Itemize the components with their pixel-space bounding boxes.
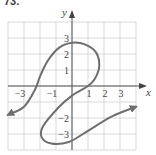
y-axis-label: y <box>61 6 67 18</box>
x-axis-label: x <box>145 86 151 98</box>
y-tick-label: 1 <box>64 65 69 76</box>
x-tick-label: 1 <box>87 88 92 99</box>
x-tick-label: 2 <box>103 88 108 99</box>
x-tick-label: −3 <box>15 88 26 99</box>
y-tick-label: −2 <box>58 113 69 124</box>
x-tick-label: 3 <box>119 88 124 99</box>
graph: x y −3−1123 321−2−3 <box>0 0 156 155</box>
x-tick-label: −1 <box>47 88 58 99</box>
y-tick-label: 3 <box>64 33 69 44</box>
y-tick-label: −3 <box>58 129 69 140</box>
y-tick-label: 2 <box>64 49 69 60</box>
